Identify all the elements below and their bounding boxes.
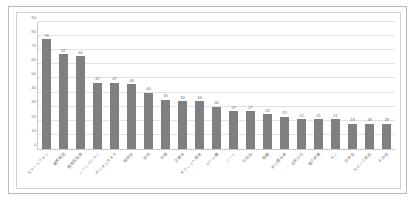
x-label-slot: 財布 xyxy=(139,151,156,189)
y-axis-tick-label: 30 xyxy=(31,100,36,104)
bar-slot: 21 xyxy=(310,22,327,149)
y-axis-tick-label: 80 xyxy=(31,30,36,34)
bar[interactable] xyxy=(246,111,255,149)
x-label-slot: ペン xyxy=(327,151,344,189)
bar-slot: 46 xyxy=(123,22,140,149)
bar-slot: 47 xyxy=(89,22,106,149)
bar[interactable] xyxy=(331,119,340,149)
bar-value-label: 21 xyxy=(316,114,321,118)
chart-x-axis-labels: スマートフォン携帯電話携帯型音楽ノートパソコンデジタルカメラ腕時計財布手帳文庫本… xyxy=(37,151,395,189)
bar-value-label: 47 xyxy=(112,77,117,81)
x-axis-tick-label: 財布 xyxy=(142,152,150,161)
bar[interactable] xyxy=(110,83,119,149)
bar-value-label: 40 xyxy=(146,87,151,91)
bar-value-label: 18 xyxy=(350,118,355,122)
bar[interactable] xyxy=(280,117,289,149)
x-label-slot: その他 xyxy=(378,151,395,189)
bar-slot: 23 xyxy=(276,22,293,149)
bar-slot: 34 xyxy=(174,22,191,149)
bar[interactable] xyxy=(348,124,357,149)
x-axis-tick-label: 眼鏡 xyxy=(262,152,270,161)
bar-slot: 18 xyxy=(361,22,378,149)
y-axis-tick-label: 90 xyxy=(31,16,36,20)
bar-value-label: 66 xyxy=(78,51,83,55)
bar[interactable] xyxy=(178,101,187,149)
x-label-slot: 電子辞書 xyxy=(310,151,327,189)
bar-slot: 27 xyxy=(242,22,259,149)
x-label-slot: スポーツ用品 xyxy=(361,151,378,189)
bar[interactable] xyxy=(42,39,51,149)
bar[interactable] xyxy=(93,83,102,149)
bar-slot: 66 xyxy=(72,22,89,149)
x-axis-tick-label: スマートフォン xyxy=(27,152,49,175)
chart-bars: 7867664747464035343430272725232121211818… xyxy=(38,22,395,149)
bar-value-label: 18 xyxy=(384,118,389,122)
chart-plot-area: 0102030405060708090 78676647474640353434… xyxy=(37,22,395,150)
bar[interactable] xyxy=(212,107,221,149)
x-axis-tick-label: ノート xyxy=(225,152,236,164)
bar[interactable] xyxy=(365,124,374,149)
bar[interactable] xyxy=(59,54,68,149)
bar[interactable] xyxy=(144,93,153,149)
x-axis-tick-label: ゲーム機 xyxy=(205,152,219,167)
bar[interactable] xyxy=(161,100,170,149)
bar[interactable] xyxy=(229,111,238,149)
bar-slot: 18 xyxy=(344,22,361,149)
bar-slot: 21 xyxy=(327,22,344,149)
x-axis-tick-label: 名刺入れ xyxy=(291,152,305,167)
bar-slot: 78 xyxy=(38,22,55,149)
x-label-slot: 化粧品 xyxy=(242,151,259,189)
bar-value-label: 18 xyxy=(367,118,372,122)
y-axis-tick-label: 10 xyxy=(31,129,36,133)
bar[interactable] xyxy=(127,84,136,149)
x-axis-tick-label: 化粧品 xyxy=(242,152,253,164)
bar-slot: 67 xyxy=(55,22,72,149)
bar-slot: 25 xyxy=(259,22,276,149)
bar-value-label: 21 xyxy=(333,114,338,118)
bar-value-label: 46 xyxy=(129,79,134,83)
bar-value-label: 21 xyxy=(299,114,304,118)
bar-value-label: 30 xyxy=(214,101,219,105)
x-label-slot: 眼鏡 xyxy=(259,151,276,189)
chart-plot-border: 0102030405060708090 78676647474640353434… xyxy=(16,12,401,189)
bar-value-label: 78 xyxy=(44,34,49,38)
bar[interactable] xyxy=(76,56,85,149)
x-axis-tick-label: 文庫本 xyxy=(174,152,185,164)
bar-slot: 30 xyxy=(208,22,225,149)
bar-value-label: 27 xyxy=(248,106,253,110)
bar[interactable] xyxy=(297,119,306,149)
bar[interactable] xyxy=(314,119,323,149)
bar-value-label: 23 xyxy=(282,111,287,115)
bar[interactable] xyxy=(195,101,204,149)
x-axis-tick-label: 手帳 xyxy=(159,152,167,161)
x-axis-tick-label: 携帯電話 xyxy=(52,152,66,167)
bar-value-label: 25 xyxy=(265,109,270,113)
x-label-slot: タブレット端末 xyxy=(190,151,207,189)
y-axis-tick-label: 50 xyxy=(31,72,36,76)
bar[interactable] xyxy=(263,114,272,149)
bar-slot: 47 xyxy=(106,22,123,149)
x-label-slot: 折り畳み傘 xyxy=(276,151,293,189)
x-axis-tick-label: お弁当 xyxy=(344,152,355,164)
bar[interactable] xyxy=(382,124,391,149)
y-axis-tick-label: 40 xyxy=(31,86,36,90)
bar-slot: 40 xyxy=(140,22,157,149)
bar-value-label: 34 xyxy=(197,96,202,100)
bar-value-label: 35 xyxy=(163,94,168,98)
bar-slot: 21 xyxy=(293,22,310,149)
y-axis-tick-label: 0 xyxy=(34,143,36,147)
x-axis-tick-label: その他 xyxy=(378,152,389,164)
x-label-slot: デジタルカメラ xyxy=(105,151,122,189)
x-axis-tick-label: 腕時計 xyxy=(123,152,134,164)
bar-value-label: 47 xyxy=(95,77,100,81)
x-label-slot: スマートフォン xyxy=(37,151,54,189)
x-label-slot: 携帯電話 xyxy=(54,151,71,189)
x-label-slot: 名刺入れ xyxy=(293,151,310,189)
bar-slot: 27 xyxy=(225,22,242,149)
x-label-slot: 手帳 xyxy=(156,151,173,189)
x-label-slot: ゲーム機 xyxy=(207,151,224,189)
y-axis-tick-label: 60 xyxy=(31,58,36,62)
x-axis-tick-label: 電子辞書 xyxy=(308,152,322,167)
y-axis-tick-label: 70 xyxy=(31,44,36,48)
x-axis-tick-label: ペン xyxy=(330,152,338,161)
